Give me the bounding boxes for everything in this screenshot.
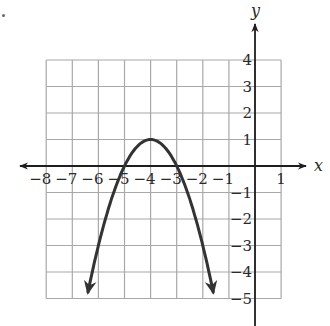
- y-tick-label: 1: [242, 131, 252, 149]
- x-tick-label: −4: [134, 170, 156, 188]
- x-axis-label: x: [314, 156, 323, 175]
- y-tick-label: −1: [230, 184, 252, 202]
- tick-labels: −8−7−6−5−4−3−2−114321−1−2−3−4−5: [29, 51, 286, 308]
- y-tick-label: 4: [242, 51, 252, 69]
- y-tick-label: 3: [242, 78, 252, 96]
- coordinate-plane: −8−7−6−5−4−3−2−114321−1−2−3−4−5 x y: [0, 0, 330, 326]
- x-tick-label: −8: [29, 170, 51, 188]
- y-tick-label: 2: [242, 104, 252, 122]
- y-tick-label: −5: [230, 290, 252, 308]
- x-tick-label: 1: [276, 170, 286, 188]
- x-tick-label: −2: [186, 170, 208, 188]
- x-tick-label: −6: [81, 170, 103, 188]
- y-tick-label: −4: [230, 263, 252, 281]
- x-tick-label: −7: [55, 170, 77, 188]
- y-tick-label: −2: [230, 210, 252, 228]
- y-axis-label: y: [250, 1, 261, 20]
- y-tick-label: −3: [230, 237, 252, 255]
